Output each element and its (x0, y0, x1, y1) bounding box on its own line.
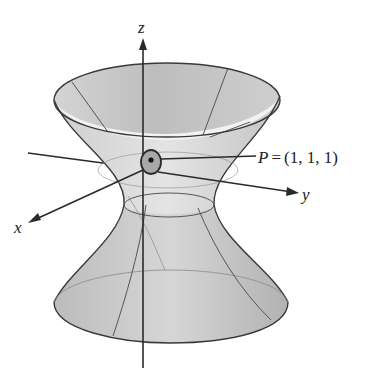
point-p-marker (148, 157, 153, 162)
point-coords: (1, 1, 1) (284, 148, 338, 167)
surface-lower-body (54, 205, 288, 343)
z-axis-label: z (137, 18, 145, 37)
diagram-svg: z x y P=(1, 1, 1) (0, 0, 371, 381)
point-equals: = (271, 148, 281, 167)
point-name: P (257, 148, 268, 167)
x-axis-label: x (13, 218, 22, 237)
y-axis-arrowhead-icon (286, 187, 299, 196)
point-label: P=(1, 1, 1) (257, 148, 338, 167)
y-axis-label: y (300, 185, 310, 204)
z-axis-arrowhead-icon (139, 38, 147, 50)
hyperboloid-diagram: z x y P=(1, 1, 1) (0, 0, 371, 381)
x-axis-arrowhead-icon (28, 213, 41, 223)
